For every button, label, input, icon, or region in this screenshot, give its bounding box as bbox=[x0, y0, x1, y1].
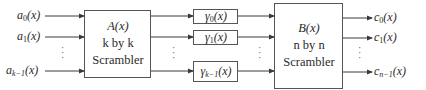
output-label-c1: c1(x) bbox=[374, 30, 397, 48]
output-ellipsis: ··· bbox=[358, 45, 361, 60]
gamma-0-label: γ0(x) bbox=[194, 9, 238, 27]
input-label-a1: a1(x) bbox=[17, 29, 40, 47]
scrambler-a-function: A(x) bbox=[85, 18, 151, 35]
input-label-a0: a0(x) bbox=[17, 8, 40, 26]
output-label-cn-1: cn−1(x) bbox=[374, 64, 406, 82]
scrambler-b-title: Scrambler bbox=[275, 54, 343, 71]
scrambler-b-function: B(x) bbox=[275, 20, 343, 37]
input-a0-arg: (x) bbox=[27, 8, 40, 22]
middle-ellipsis-right: ··· bbox=[258, 45, 261, 60]
scrambler-a-size: k by k bbox=[85, 35, 151, 52]
gamma-k-1-label: γk−1(x) bbox=[194, 64, 238, 82]
gamma-1-label: γ1(x) bbox=[194, 30, 238, 48]
scrambler-b-size: n by n bbox=[275, 37, 343, 54]
scrambler-a-label: A(x) k by k Scrambler bbox=[85, 18, 151, 69]
input-ak-1-arg: (x) bbox=[25, 63, 38, 77]
scrambler-a-title: Scrambler bbox=[85, 52, 151, 69]
input-a1-arg: (x) bbox=[27, 29, 40, 43]
scrambler-b-label: B(x) n by n Scrambler bbox=[275, 20, 343, 71]
input-label-ak-1: ak−1(x) bbox=[6, 63, 38, 81]
middle-ellipsis-left: ··· bbox=[172, 45, 175, 60]
input-ak-1-sub: k−1 bbox=[12, 69, 25, 78]
input-ellipsis: ··· bbox=[61, 45, 64, 60]
output-label-c0: c0(x) bbox=[374, 10, 397, 28]
